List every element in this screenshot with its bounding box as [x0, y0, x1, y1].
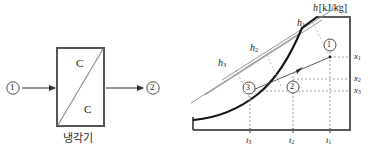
- ytick-label-x1: x1: [354, 52, 361, 62]
- xtick-label-t2: t2: [289, 136, 294, 146]
- state-point-1-dot: [329, 56, 332, 59]
- chart-vectors: [0, 0, 371, 152]
- saturation-curve: [194, 17, 317, 120]
- ytick-label-x3-sub: 3: [358, 89, 361, 95]
- chart-ylabel: h [kJ/kg]: [313, 3, 347, 13]
- xtick-label-t1-sub: 1: [329, 139, 332, 145]
- chart-frame: [193, 17, 350, 130]
- ytick-label-x2: x2: [354, 74, 361, 84]
- xtick-label-t3: t3: [246, 136, 251, 146]
- ytick-label-x2-sub: 2: [358, 77, 361, 83]
- enthalpy-label-h3-sub: 3: [223, 61, 226, 68]
- state-marker-2-digit: 2: [290, 83, 294, 91]
- xtick-label-t3-sub: 3: [249, 139, 252, 145]
- process-arrow-head: [296, 67, 303, 74]
- ytick-label-x3: x3: [354, 86, 361, 96]
- state-marker-3-digit: 3: [246, 84, 250, 92]
- chart-ylabel-unit: [kJ/kg]: [319, 2, 347, 13]
- xtick-label-t1: t1: [326, 136, 331, 146]
- enthalpy-label-h3: h3: [218, 58, 226, 69]
- ytick-label-x1-sub: 1: [358, 55, 361, 61]
- xtick-label-t2-sub: 2: [292, 139, 295, 145]
- state-marker-1-digit: 1: [327, 41, 331, 49]
- enthalpy-label-h1-sub: 1: [302, 21, 305, 28]
- enthalpy-label-h2: h2: [250, 43, 258, 54]
- enthalpy-label-h2-sub: 2: [255, 46, 258, 53]
- enthalpy-label-h1: h1: [297, 18, 305, 29]
- figure-root: C C 냉각기 ① 1 ② 2: [0, 0, 371, 152]
